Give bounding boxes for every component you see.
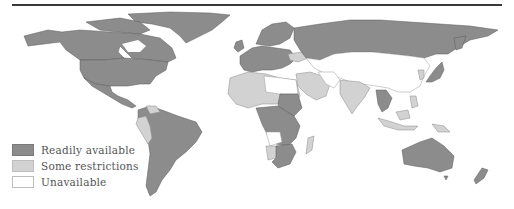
region-libya-egypt xyxy=(264,76,298,94)
region-philippines xyxy=(410,96,418,108)
legend-label: Unavailable xyxy=(41,176,107,188)
region-russia xyxy=(294,20,498,60)
region-madagascar xyxy=(306,136,314,154)
legend-label: Some restrictions xyxy=(41,160,139,172)
region-india xyxy=(340,80,370,114)
region-borneo xyxy=(396,110,410,120)
region-scandinavia xyxy=(256,22,294,46)
region-papua xyxy=(432,124,450,132)
map-legend: Readily available Some restrictions Unav… xyxy=(12,142,139,190)
region-uk xyxy=(234,40,244,52)
legend-swatch-readily-available xyxy=(12,144,34,156)
legend-swatch-some-restrictions xyxy=(12,160,34,172)
region-australia xyxy=(402,138,454,172)
region-tasmania xyxy=(444,176,448,180)
legend-item-readily-available: Readily available xyxy=(12,142,139,157)
region-usa xyxy=(80,58,168,86)
region-north-america-north xyxy=(24,30,176,62)
region-western-europe xyxy=(240,46,296,72)
legend-label: Readily available xyxy=(41,144,135,156)
region-indonesia xyxy=(378,118,418,130)
legend-swatch-unavailable xyxy=(12,176,34,188)
legend-item-some-restrictions: Some restrictions xyxy=(12,158,139,173)
legend-item-unavailable: Unavailable xyxy=(12,174,139,189)
region-new-zealand xyxy=(474,168,488,184)
region-southeast-asia xyxy=(376,90,392,112)
